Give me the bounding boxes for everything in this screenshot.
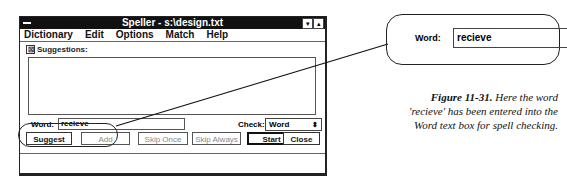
callout-word-input: recieve (453, 28, 567, 48)
figure-caption: Figure 11-31. Here the word 'recieve' ha… (394, 90, 558, 132)
callout-word-label: Word: (415, 33, 441, 43)
figure-number: Figure 11-31. (431, 91, 493, 103)
highlight-oval (18, 123, 118, 147)
